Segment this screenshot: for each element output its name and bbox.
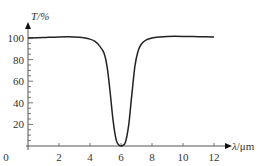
y-tick-label: 60 (13, 75, 25, 87)
x-tick-label: 8 (149, 151, 155, 163)
x-tick-label: 4 (87, 151, 93, 163)
x-tick-label: 2 (56, 151, 62, 163)
x-axis-arrow-icon (225, 143, 232, 149)
x-tick-label: 6 (118, 151, 124, 163)
y-tick-label: 100 (8, 32, 25, 44)
transmittance-curve (28, 36, 214, 146)
x-axis-label: λ/μm (231, 140, 255, 152)
y-tick-label: 20 (13, 118, 25, 130)
transmittance-chart: 20406080100024681012 T/% λ/μm (0, 0, 275, 166)
axis-ticks (28, 38, 214, 146)
x-tick-label: 12 (209, 151, 220, 163)
y-axis-arrow-icon (25, 22, 31, 29)
x-tick-label: 10 (178, 151, 190, 163)
y-tick-label: 80 (13, 54, 25, 66)
x-tick-label: 0 (3, 151, 9, 163)
y-tick-label: 40 (13, 97, 25, 109)
y-axis-label: T/% (31, 10, 49, 22)
